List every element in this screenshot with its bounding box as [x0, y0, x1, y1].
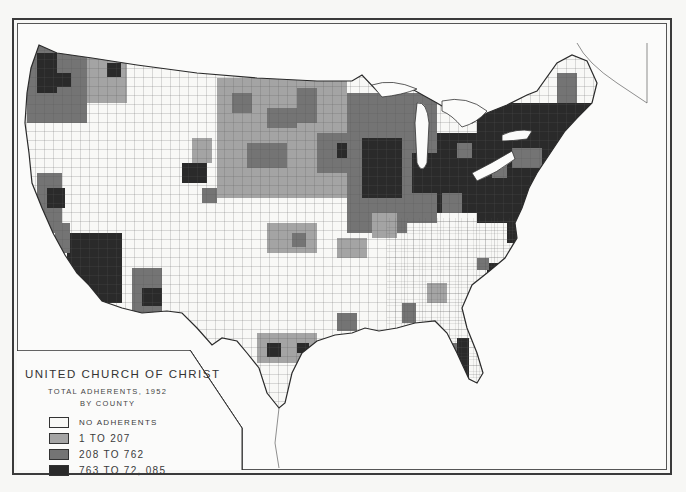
swatch-mid: [49, 449, 69, 460]
legend-label: 1 TO 207: [79, 433, 131, 444]
legend-subtitle: TOTAL ADHERENTS, 1952: [48, 387, 167, 396]
map-legend: UNITED CHURCH OF CHRIST TOTAL ADHERENTS,…: [17, 355, 272, 470]
legend-label: NO ADHERENTS: [79, 418, 158, 427]
legend-item-none: NO ADHERENTS: [49, 415, 158, 429]
legend-label: 763 TO 72, 085: [79, 465, 166, 476]
legend-item-high: 763 TO 72, 085: [49, 463, 166, 477]
swatch-high: [49, 465, 69, 476]
legend-title: UNITED CHURCH OF CHRIST: [25, 368, 221, 380]
legend-subtitle-unit: BY COUNTY: [80, 399, 135, 408]
swatch-low: [49, 433, 69, 444]
legend-item-mid: 208 TO 762: [49, 447, 144, 461]
legend-item-low: 1 TO 207: [49, 431, 131, 445]
legend-label: 208 TO 762: [79, 449, 144, 460]
swatch-none: [49, 417, 69, 428]
